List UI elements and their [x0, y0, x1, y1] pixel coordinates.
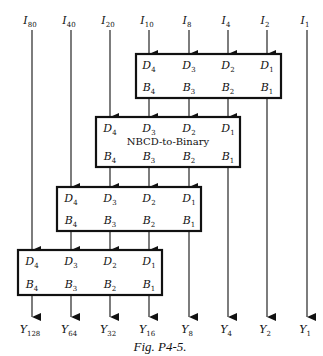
output-label-Y128: Y128 [20, 323, 41, 338]
output-label-Y2: Y2 [259, 323, 271, 338]
nbcd-to-binary-converter-4: D4B4D3B3D2B2D1B1 [18, 250, 162, 295]
input-label-I1: I1 [300, 14, 310, 29]
input-label-I20: I20 [100, 14, 114, 29]
converter-box [136, 54, 281, 98]
input-label-I80: I80 [22, 14, 36, 29]
converter-box [18, 250, 162, 295]
output-label-Y16: Y16 [139, 323, 156, 338]
figure-caption: Fig. P4-5. [132, 339, 186, 354]
input-label-I10: I10 [139, 14, 153, 29]
nbcd-to-binary-converter-2: D4B4D3B3D2B2D1B1NBCD-to-Binary [96, 117, 240, 167]
output-label-Y4: Y4 [220, 323, 232, 338]
output-label-Y1: Y1 [299, 323, 311, 338]
nbcd-to-binary-converter-3: D4B4D3B3D2B2D1B1 [57, 187, 201, 231]
input-label-I4: I4 [221, 14, 231, 29]
output-label-Y8: Y8 [181, 323, 193, 338]
input-label-I8: I8 [182, 14, 192, 29]
converter-box [57, 187, 201, 231]
nbcd-to-binary-converter-1: D4B4D3B3D2B2D1B1 [136, 54, 281, 98]
input-label-I2: I2 [260, 14, 270, 29]
input-label-I40: I40 [61, 14, 75, 29]
nbcd-to-binary-converter-diagram: D4B4D3B3D2B2D1B1D4B4D3B3D2B2D1B1NBCD-to-… [0, 0, 323, 356]
output-label-Y64: Y64 [61, 323, 78, 338]
output-label-Y32: Y32 [100, 323, 116, 338]
converter-title: NBCD-to-Binary [127, 136, 210, 147]
